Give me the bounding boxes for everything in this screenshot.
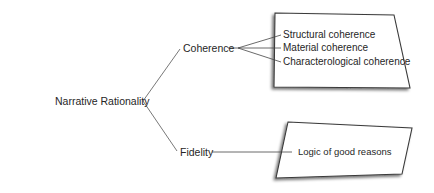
leaf-material-coherence: Material coherence — [283, 42, 368, 54]
connector-root-fidelity — [143, 101, 177, 151]
root-label: Narrative Rationality — [55, 95, 150, 107]
branch-label-fidelity: Fidelity — [180, 146, 213, 158]
leaf-structural-coherence: Structural coherence — [283, 29, 375, 41]
branch-label-coherence: Coherence — [183, 42, 234, 54]
connector-root-coherence — [143, 49, 180, 101]
leaf-logic-of-good-reasons: Logic of good reasons — [298, 146, 391, 158]
leaf-characterological-coherence: Characterological coherence — [283, 56, 410, 68]
